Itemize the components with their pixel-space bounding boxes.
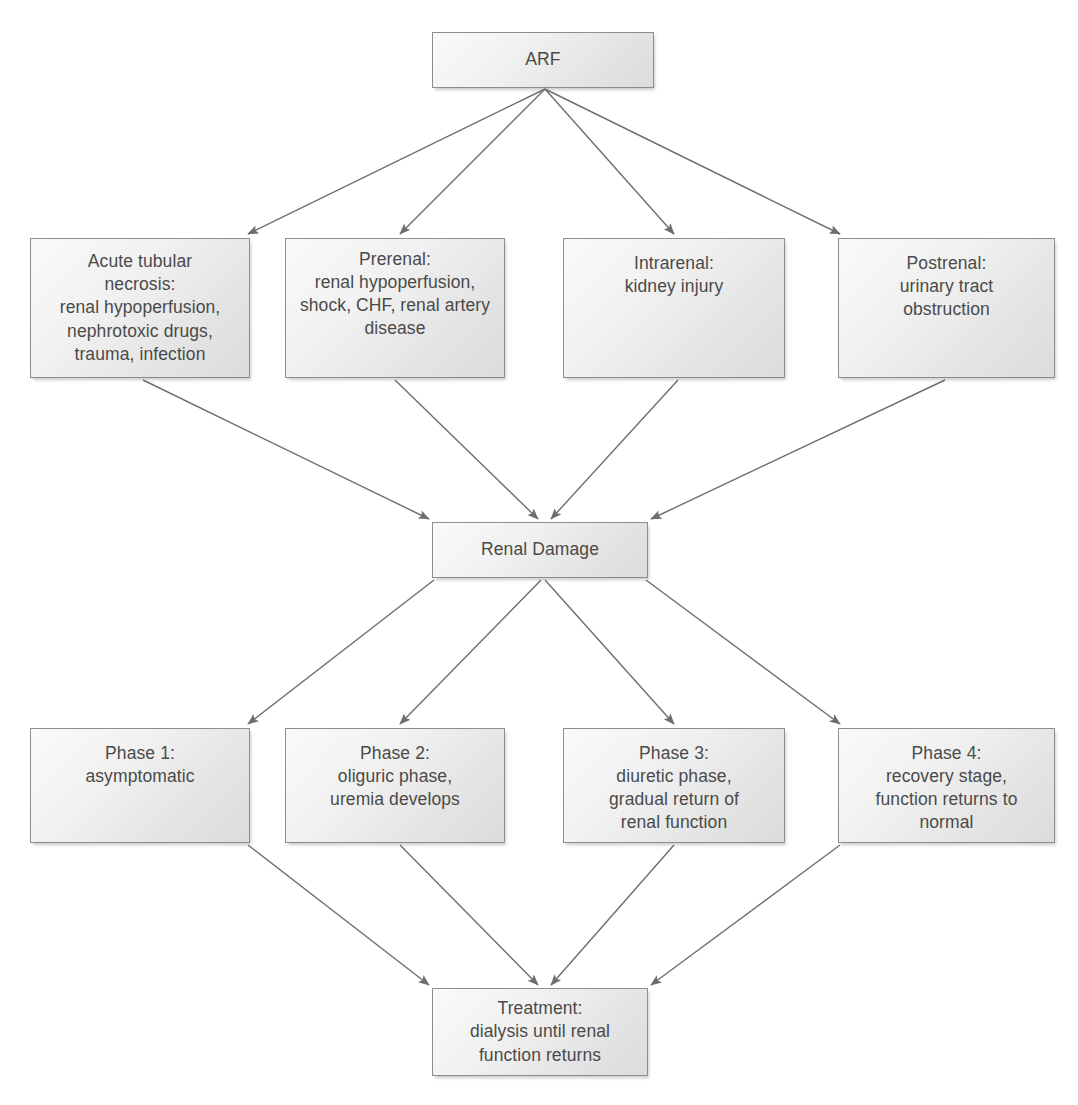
phase-3-to-treatment <box>551 845 674 985</box>
node-intrarenal[interactable]: Intrarenal: kidney injury <box>563 238 785 378</box>
node-renal-damage[interactable]: Renal Damage <box>432 522 648 578</box>
arf-to-intrarenal <box>545 89 674 234</box>
renal-damage-to-phase-3 <box>545 580 674 724</box>
node-phase-4[interactable]: Phase 4: recovery stage, function return… <box>838 728 1055 843</box>
node-prerenal[interactable]: Prerenal: renal hypoperfusion, shock, CH… <box>285 238 505 378</box>
node-treatment[interactable]: Treatment: dialysis until renal function… <box>432 988 648 1076</box>
arf-to-postrenal <box>545 89 840 234</box>
node-phase-3[interactable]: Phase 3: diuretic phase, gradual return … <box>563 728 785 843</box>
node-postrenal-label: Postrenal: urinary tract obstruction <box>900 252 994 321</box>
phase-2-to-treatment <box>400 845 538 985</box>
prerenal-to-renal-damage <box>395 380 538 519</box>
node-prerenal-label: Prerenal: renal hypoperfusion, shock, CH… <box>300 248 490 340</box>
node-acute-tubular-necrosis-label: Acute tubular necrosis: renal hypoperfus… <box>60 250 221 365</box>
node-phase-2[interactable]: Phase 2: oliguric phase, uremia develops <box>285 728 505 843</box>
renal-damage-to-phase-1 <box>248 580 434 724</box>
node-treatment-label: Treatment: dialysis until renal function… <box>470 997 610 1066</box>
phase-4-to-treatment <box>651 845 840 985</box>
postrenal-to-renal-damage <box>651 380 945 519</box>
node-arf[interactable]: ARF <box>432 32 654 88</box>
node-phase-1[interactable]: Phase 1: asymptomatic <box>30 728 250 843</box>
acute-tubular-necrosis-to-renal-damage <box>143 380 429 519</box>
phase-1-to-treatment <box>248 845 429 985</box>
arf-to-acute-tubular-necrosis <box>248 89 545 234</box>
node-renal-damage-label: Renal Damage <box>481 538 599 561</box>
node-postrenal[interactable]: Postrenal: urinary tract obstruction <box>838 238 1055 378</box>
node-phase-2-label: Phase 2: oliguric phase, uremia develops <box>330 742 460 811</box>
renal-damage-to-phase-2 <box>400 580 541 724</box>
renal-damage-to-phase-4 <box>646 580 840 724</box>
node-phase-4-label: Phase 4: recovery stage, function return… <box>876 742 1018 834</box>
node-phase-1-label: Phase 1: asymptomatic <box>85 742 194 788</box>
node-arf-label: ARF <box>525 48 560 71</box>
arf-to-prerenal <box>400 89 545 234</box>
node-acute-tubular-necrosis[interactable]: Acute tubular necrosis: renal hypoperfus… <box>30 238 250 378</box>
node-phase-3-label: Phase 3: diuretic phase, gradual return … <box>609 742 739 834</box>
node-intrarenal-label: Intrarenal: kidney injury <box>625 252 724 298</box>
intrarenal-to-renal-damage <box>551 380 678 519</box>
flowchart-canvas: ARF Acute tubular necrosis: renal hypope… <box>0 0 1078 1105</box>
